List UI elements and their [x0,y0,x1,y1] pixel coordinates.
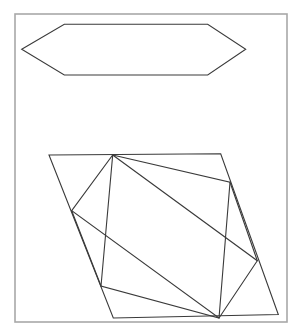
shape-layer [22,24,279,318]
figure-root [0,0,301,336]
inscribed-quad-2 [101,155,230,318]
geometric-figure-canvas [0,0,301,336]
outer-border [15,14,287,322]
chord-right-upper [230,182,257,260]
hexagon [22,24,246,75]
outer-parallelogram [49,154,278,318]
